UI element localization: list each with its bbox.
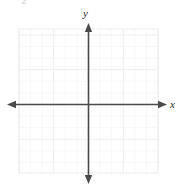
x-axis-arrow-right (158, 101, 167, 108)
y-axis-label: y (83, 8, 88, 19)
x-axis-arrow-left (7, 101, 16, 108)
x-axis-label: x (170, 99, 175, 110)
coordinate-plane-svg (0, 0, 180, 188)
y-axis-arrow-up (85, 23, 92, 32)
y-axis-arrow-down (85, 175, 92, 184)
coordinate-grid-figure: y x z (0, 0, 180, 188)
stray-partial-glyph: z (22, 0, 26, 6)
